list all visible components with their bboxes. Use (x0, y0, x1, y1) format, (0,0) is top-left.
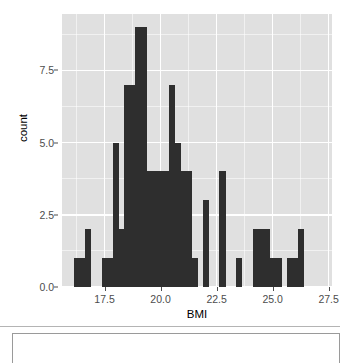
y-tick-mark (54, 214, 58, 215)
y-tick-mark (54, 287, 58, 288)
y-tick-label: 2.5 (20, 209, 54, 221)
gridline-major-vertical (272, 14, 274, 287)
y-tick-label: 7.5 (20, 64, 54, 76)
gridline-major-horizontal (62, 214, 332, 216)
histogram-bar (85, 229, 91, 287)
histogram-bar (219, 171, 225, 287)
gridline-minor-horizontal (62, 106, 332, 107)
gridline-major-vertical (328, 14, 330, 287)
x-tick-label: 25.0 (250, 293, 296, 305)
x-tick-label: 22.5 (194, 293, 240, 305)
gridline-minor-vertical (244, 14, 245, 287)
x-tick-mark (161, 287, 162, 291)
histogram-bar (203, 200, 209, 287)
gridline-minor-horizontal (62, 34, 332, 35)
x-tick-label: 20.0 (138, 293, 184, 305)
x-tick-mark (105, 287, 106, 291)
gridline-major-horizontal (62, 70, 332, 72)
y-tick-mark (54, 70, 58, 71)
y-tick-label: 0.0 (20, 281, 54, 293)
x-tick-label: 17.5 (82, 293, 128, 305)
gridline-major-horizontal (62, 142, 332, 144)
histogram-bar (236, 258, 242, 287)
x-tick-mark (329, 287, 330, 291)
x-axis-title: BMI (62, 308, 332, 320)
y-tick-label: 5.0 (20, 137, 54, 149)
x-tick-mark (273, 287, 274, 291)
histogram-bar (191, 258, 197, 287)
y-tick-mark (54, 142, 58, 143)
gridline-major-vertical (104, 14, 106, 287)
gridline-minor-horizontal (62, 250, 332, 251)
plot-panel (62, 14, 332, 287)
gridline-minor-vertical (76, 14, 77, 287)
x-tick-label: 27.5 (306, 293, 340, 305)
histogram-bar (275, 258, 281, 287)
y-axis-ticks: 0.02.55.07.5 (18, 0, 54, 350)
x-tick-mark (217, 287, 218, 291)
bottom-frame-box (12, 333, 340, 363)
gridline-major-vertical (216, 14, 218, 287)
histogram-bar (298, 229, 304, 287)
gridline-minor-horizontal (62, 178, 332, 179)
horizontal-rule (0, 326, 340, 327)
